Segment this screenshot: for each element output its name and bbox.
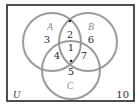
region-a-b-only: 2	[67, 29, 73, 40]
region-c-only: 5	[68, 66, 74, 77]
set-label-a: A	[46, 21, 54, 32]
universe-label: U	[13, 89, 21, 100]
region-a-only: 3	[44, 34, 50, 45]
venn-diagram: A B C 3 2 6 1 4 7 5 U 10	[0, 0, 138, 106]
region-b-only: 6	[88, 34, 94, 45]
region-a-c-only: 4	[54, 50, 60, 61]
intersection-dot-bottom	[70, 60, 73, 63]
intersection-dot-top	[69, 20, 72, 23]
region-a-b-c: 1	[68, 42, 74, 53]
set-label-c: C	[67, 80, 74, 91]
region-outside: 10	[116, 89, 129, 100]
set-label-b: B	[88, 21, 94, 32]
region-b-c-only: 7	[81, 50, 87, 61]
